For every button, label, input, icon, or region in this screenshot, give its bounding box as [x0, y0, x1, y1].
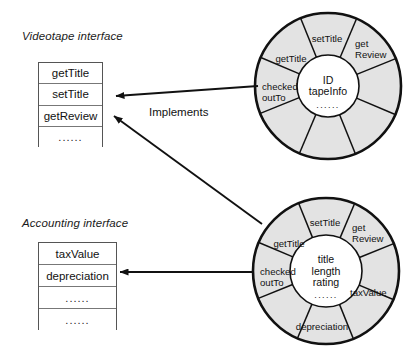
arrow-videotape-implements — [116, 86, 258, 96]
sector-label-checkedoutto[interactable]: outTo — [262, 92, 285, 103]
sector-label-taxvalue[interactable]: taxValue — [350, 287, 387, 298]
component-core-line: ID — [323, 74, 334, 86]
sector-label-getreview[interactable]: Review — [355, 49, 387, 60]
accounting-interface-box[interactable]: taxValuedepreciation............ — [38, 242, 117, 330]
sector-label-depreciation[interactable]: depreciation — [296, 321, 348, 332]
sector-label-getreview[interactable]: get — [352, 222, 366, 233]
accounting-component-wheel: titlelengthrating......setTitlegetReview… — [253, 198, 399, 344]
accounting-interface-title: Accounting interface — [22, 217, 128, 229]
interface-row-settitle[interactable]: setTitle — [39, 84, 102, 105]
component-core-ellipsis: ...... — [314, 290, 337, 300]
interface-row-gettitle[interactable]: getTitle — [39, 63, 102, 84]
interface-row-ellipsis[interactable]: ...... — [39, 309, 116, 331]
sector-label-getreview[interactable]: get — [355, 38, 369, 49]
videotape-component-wheel: IDtapeInfo......setTitlegetReviewchecked… — [255, 13, 401, 159]
interface-row-taxvalue[interactable]: taxValue — [39, 243, 116, 265]
sector-label-getreview[interactable]: Review — [352, 233, 384, 244]
component-core-line: length — [312, 265, 341, 277]
sector-label-gettitle[interactable]: getTitle — [273, 238, 304, 249]
videotape-interface-title: Videotape interface — [22, 30, 123, 42]
sector-label-checkedoutto[interactable]: checked — [260, 266, 296, 277]
interface-row-ellipsis[interactable]: ...... — [39, 127, 102, 148]
component-core-line: rating — [313, 276, 340, 288]
interface-row-depreciation[interactable]: depreciation — [39, 265, 116, 287]
arrow-accounting-to-videotape — [114, 116, 262, 224]
component-core-ellipsis: ...... — [316, 100, 339, 110]
sector-label-settitle[interactable]: setTitle — [312, 33, 343, 44]
sector-label-gettitle[interactable]: getTitle — [275, 53, 306, 64]
sector-label-settitle[interactable]: setTitle — [310, 217, 341, 228]
interface-row-getreview[interactable]: getReview — [39, 106, 102, 127]
diagram-canvas: IDtapeInfo......setTitlegetReviewchecked… — [0, 0, 420, 351]
component-core-line: title — [318, 253, 335, 265]
component-core-line: tapeInfo — [309, 85, 347, 97]
sector-label-checkedoutto[interactable]: outTo — [260, 277, 283, 288]
sector-label-checkedoutto[interactable]: checked — [262, 81, 298, 92]
implements-label: Implements — [149, 106, 208, 118]
interface-row-ellipsis[interactable]: ...... — [39, 287, 116, 309]
videotape-interface-box[interactable]: getTitlesetTitlegetReview...... — [38, 62, 103, 147]
